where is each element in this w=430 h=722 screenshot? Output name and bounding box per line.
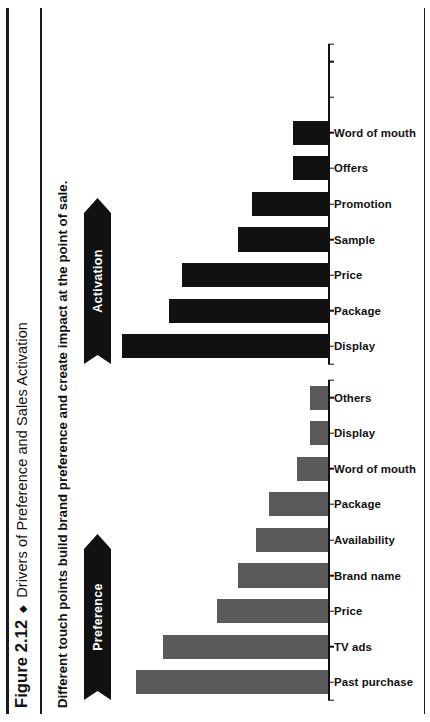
category-slot: Past purchase [330,664,416,700]
charts-area: Preference Past purchaseTV adsPriceBrand… [78,0,416,722]
bar [310,386,329,410]
bar-slot [122,80,328,116]
category-label: Display [334,340,375,352]
figure-page: Figure 2.12 ◆ Drivers of Preference and … [0,0,430,722]
category-slot: Sample [330,222,416,258]
diamond-icon: ◆ [17,605,28,613]
category-slot: Brand name [330,558,416,594]
category-slot: Availability [330,522,416,558]
category-slot: Package [330,487,416,523]
bar [297,457,328,481]
category-label: Package [334,498,381,510]
bars-activation [122,44,328,364]
banner-activation-label: Activation [91,249,105,312]
categories-activation: DisplayPackagePriceSamplePromotionOffers… [330,44,416,364]
bar [163,635,328,659]
category-label: Availability [334,534,395,546]
bar-slot [122,328,328,364]
banner-activation: Activation [84,198,111,364]
bar [293,121,328,145]
category-slot: Others [330,380,416,416]
plot-activation [122,44,330,364]
category-label: Price [334,605,362,617]
bar-slot [122,522,328,558]
page-inner: Figure 2.12 ◆ Drivers of Preference and … [0,0,430,722]
bar [182,263,329,287]
category-label: Word of mouth [334,127,416,139]
category-slot: Package [330,293,416,329]
bar-slot [122,664,328,700]
bar [256,528,328,552]
bar-slot [122,151,328,187]
category-label: Word of mouth [334,463,416,475]
category-slot: Display [330,328,416,364]
banner-preference: Preference [84,534,111,700]
bar [238,563,329,587]
heading-rule [40,8,42,714]
bar [122,334,328,358]
category-slot: Word of mouth [330,451,416,487]
bar-slot [122,593,328,629]
category-slot: Price [330,257,416,293]
banner-preference-label: Preference [91,583,105,651]
bar [269,492,329,516]
category-label: Display [334,427,375,439]
category-slot: Word of mouth [330,115,416,151]
category-label: Price [334,269,362,281]
category-slot: Price [330,593,416,629]
bar-slot [122,451,328,487]
bar-slot [122,222,328,258]
bar-slot [122,293,328,329]
bar-slot [122,487,328,523]
bar [310,421,329,445]
bar-slot [122,115,328,151]
panel-preference: Preference Past purchaseTV adsPriceBrand… [78,376,416,706]
bar-slot [122,629,328,665]
figure-title: Drivers of Preference and Sales Activati… [14,322,30,598]
category-slot: TV ads [330,629,416,665]
category-label: Package [334,305,381,317]
category-label: Offers [334,162,368,174]
bar-slot [122,44,328,80]
bar-slot [122,558,328,594]
category-label: Others [334,392,371,404]
category-label: Brand name [334,570,401,582]
category-label: TV ads [334,641,372,653]
category-label: Sample [334,234,375,246]
bar-slot [122,257,328,293]
figure-number: Figure 2.12 [12,620,31,708]
category-slot: Display [330,416,416,452]
bar-slot [122,186,328,222]
bars-preference [122,380,328,700]
bar [293,156,328,180]
bar-slot [122,380,328,416]
bar-slot [122,416,328,452]
bar [169,299,328,323]
plot-preference [122,380,330,700]
panel-activation: Activation DisplayPackagePriceSampleProm… [78,40,416,370]
category-slot: Offers [330,151,416,187]
bar [238,227,329,251]
figure-subtitle: Different touch points build brand prefe… [55,181,70,708]
bar [252,192,328,216]
categories-preference: Past purchaseTV adsPriceBrand nameAvaila… [330,380,416,700]
bottom-rule [424,8,426,714]
category-label: Past purchase [334,676,413,688]
category-label: Promotion [334,198,392,210]
top-rule [6,8,9,714]
category-slot: Promotion [330,186,416,222]
bar [217,599,328,623]
bar [136,670,328,694]
figure-heading: Figure 2.12 ◆ Drivers of Preference and … [12,322,31,708]
